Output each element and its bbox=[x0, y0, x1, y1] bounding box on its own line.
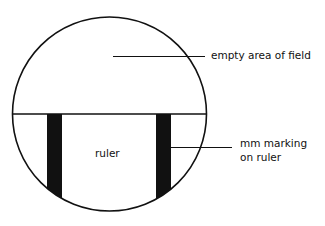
label-mm-marking-line1: mm marking bbox=[240, 137, 307, 150]
label-mm-marking-line2: on ruler bbox=[240, 151, 281, 164]
ruler-markings bbox=[47, 114, 171, 224]
mm-marking-right bbox=[156, 114, 171, 224]
mm-marking-left bbox=[47, 114, 62, 224]
label-ruler: ruler bbox=[95, 147, 120, 160]
field-of-view-diagram bbox=[0, 0, 325, 226]
label-empty-area: empty area of field bbox=[211, 49, 311, 62]
